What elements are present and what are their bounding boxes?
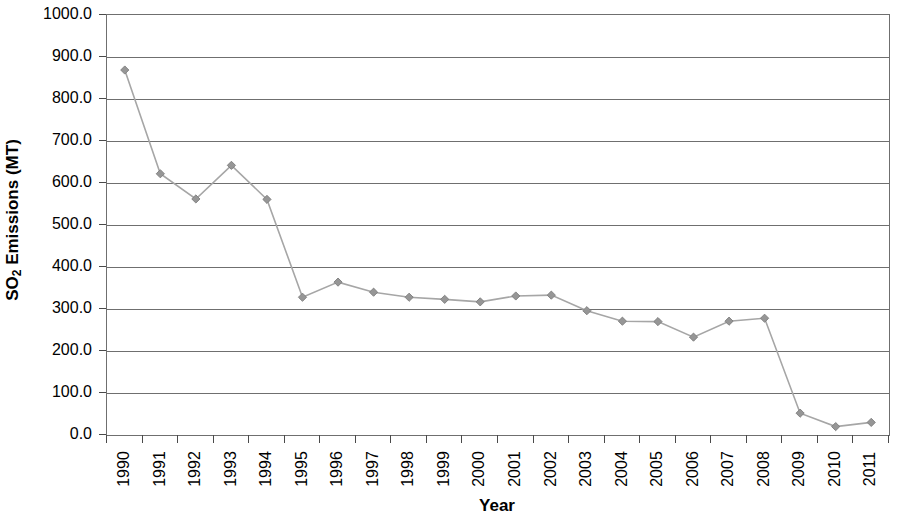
data-point-marker <box>334 278 342 286</box>
x-axis-tick-mark <box>355 435 356 443</box>
x-axis-tick-label: 2004 <box>612 443 630 493</box>
x-axis-tick-mark <box>390 435 391 443</box>
x-axis-tick-marks <box>106 435 890 443</box>
x-axis-tick-mark <box>248 435 249 443</box>
y-axis-tick-label: 600.0 <box>52 173 92 191</box>
y-axis-tick-label: 1000.0 <box>43 5 92 23</box>
data-point-marker <box>405 293 413 301</box>
x-axis-tick-mark <box>604 435 605 443</box>
y-axis-title-text: SO2 Emissions (MT) <box>3 139 23 301</box>
data-point-marker <box>867 418 875 426</box>
x-axis-tick-mark <box>426 435 427 443</box>
x-axis-tick-mark <box>817 435 818 443</box>
data-point-marker <box>476 298 484 306</box>
y-axis-tick-label: 100.0 <box>52 383 92 401</box>
x-axis-tick-mark <box>177 435 178 443</box>
data-point-marker <box>547 291 555 299</box>
series-line <box>125 70 871 427</box>
x-axis-tick-label: 2000 <box>470 443 488 493</box>
data-point-marker <box>654 318 662 326</box>
x-axis-tick-label: 2005 <box>648 443 666 493</box>
y-axis-tick-mark <box>99 14 106 15</box>
y-axis-tick-label: 200.0 <box>52 341 92 359</box>
x-axis-tick-mark <box>319 435 320 443</box>
x-axis-tick-label: 2009 <box>790 443 808 493</box>
y-axis-tick-mark <box>99 56 106 57</box>
data-point-marker <box>760 314 768 322</box>
x-axis-tick-label: 2006 <box>684 443 702 493</box>
data-point-marker <box>298 293 306 301</box>
x-axis-title: Year <box>106 496 888 516</box>
x-axis-tick-label: 1999 <box>435 443 453 493</box>
y-axis-tick-label: 800.0 <box>52 89 92 107</box>
x-axis-tick-label: 1992 <box>186 443 204 493</box>
plot-area <box>106 14 890 436</box>
data-point-marker <box>121 66 129 74</box>
x-axis-tick-label: 2010 <box>826 443 844 493</box>
x-axis-tick-label: 2003 <box>577 443 595 493</box>
x-axis-tick-mark <box>213 435 214 443</box>
x-axis-tick-label: 1995 <box>293 443 311 493</box>
data-point-marker <box>725 317 733 325</box>
x-axis-tick-mark <box>106 435 107 443</box>
data-point-marker <box>369 288 377 296</box>
x-axis-tick-mark <box>497 435 498 443</box>
x-axis-tick-label: 1997 <box>364 443 382 493</box>
x-axis-tick-label: 1998 <box>399 443 417 493</box>
x-axis-tick-label: 1996 <box>328 443 346 493</box>
y-axis-tick-label: 0.0 <box>70 425 92 443</box>
y-axis-tick-label: 700.0 <box>52 131 92 149</box>
x-axis-tick-label: 2001 <box>506 443 524 493</box>
x-axis-tick-mark <box>142 435 143 443</box>
data-point-marker <box>583 307 591 315</box>
x-axis-tick-label: 2002 <box>541 443 559 493</box>
x-axis-tick-mark <box>675 435 676 443</box>
x-axis-tick-label: 1993 <box>221 443 239 493</box>
y-axis-tick-mark <box>99 308 106 309</box>
x-axis-tick-mark <box>533 435 534 443</box>
x-axis-tick-label: 2008 <box>755 443 773 493</box>
x-axis-tick-labels: 1990199119921993199419951996199719981999… <box>106 443 890 495</box>
x-axis-tick-mark <box>888 435 889 443</box>
x-axis-tick-mark <box>639 435 640 443</box>
x-axis-tick-mark <box>746 435 747 443</box>
y-axis-tick-mark <box>99 224 106 225</box>
x-axis-tick-mark <box>781 435 782 443</box>
data-point-marker <box>796 409 804 417</box>
x-axis-tick-mark <box>461 435 462 443</box>
y-axis-tick-labels: 0.0100.0200.0300.0400.0500.0600.0700.080… <box>26 0 100 448</box>
x-axis-tick-mark <box>710 435 711 443</box>
x-axis-tick-label: 1991 <box>150 443 168 493</box>
y-axis-tick-mark <box>99 140 106 141</box>
y-axis-tick-label: 500.0 <box>52 215 92 233</box>
y-axis-tick-mark <box>99 392 106 393</box>
data-series-layer <box>107 15 889 435</box>
data-point-marker <box>689 333 697 341</box>
y-axis-tick-mark <box>99 350 106 351</box>
x-axis-tick-label: 2011 <box>861 443 879 493</box>
x-axis-tick-mark <box>284 435 285 443</box>
x-axis-tick-mark <box>852 435 853 443</box>
y-axis-tick-mark <box>99 98 106 99</box>
data-point-marker <box>512 292 520 300</box>
y-axis-tick-label: 400.0 <box>52 257 92 275</box>
x-axis-tick-label: 1994 <box>257 443 275 493</box>
data-point-marker <box>832 423 840 431</box>
y-axis-title-suffix: Emissions (MT) <box>3 139 22 269</box>
x-axis-tick-label: 2007 <box>719 443 737 493</box>
data-point-marker <box>618 317 626 325</box>
y-axis-tick-mark <box>99 434 106 435</box>
x-axis-tick-label: 1990 <box>115 443 133 493</box>
y-axis-tick-mark <box>99 266 106 267</box>
y-axis-tick-mark <box>99 182 106 183</box>
y-axis-title-subscript: 2 <box>10 270 24 277</box>
y-axis-title-prefix: SO <box>3 276 22 301</box>
y-axis-tick-label: 300.0 <box>52 299 92 317</box>
so2-emissions-line-chart: SO2 Emissions (MT) 0.0100.0200.0300.0400… <box>0 0 904 521</box>
data-point-marker <box>441 295 449 303</box>
x-axis-tick-mark <box>568 435 569 443</box>
y-axis-title: SO2 Emissions (MT) <box>0 0 26 440</box>
y-axis-tick-label: 900.0 <box>52 47 92 65</box>
